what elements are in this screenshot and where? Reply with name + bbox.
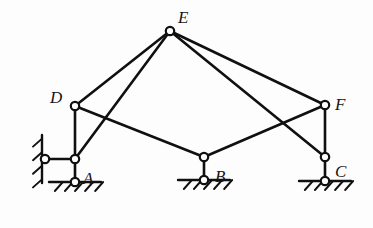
joint-Cj: [321, 153, 329, 161]
label-C: C: [335, 163, 346, 180]
diagram-canvas: EDFABC: [0, 0, 373, 228]
truss-diagram: [0, 0, 373, 228]
support-A-hatch: [95, 182, 103, 191]
joint-Bj: [200, 153, 208, 161]
supports-layer: [33, 135, 353, 191]
label-F: F: [335, 96, 345, 113]
member-Bj-F: [204, 105, 325, 157]
label-E: E: [178, 9, 188, 26]
label-D: D: [50, 89, 62, 106]
support-wall-left-hatch: [33, 139, 42, 147]
label-A: A: [83, 170, 93, 187]
support-wall-left-hatch: [33, 166, 42, 174]
members-layer: [45, 31, 325, 182]
support-C-hatch: [335, 181, 343, 190]
support-C-hatch: [305, 181, 313, 190]
joint-D: [71, 102, 79, 110]
joint-F: [321, 101, 329, 109]
joints-layer: [41, 27, 329, 186]
joint-B: [200, 176, 208, 184]
support-wall-left-hatch: [33, 179, 42, 187]
joint-C: [321, 177, 329, 185]
label-B: B: [215, 168, 225, 185]
joint-A: [71, 178, 79, 186]
joint-Aj: [71, 155, 79, 163]
support-B-hatch: [184, 180, 192, 189]
joint-E: [166, 27, 174, 35]
support-A-hatch: [55, 182, 63, 191]
support-C-hatch: [345, 181, 353, 190]
joint-W: [41, 155, 49, 163]
